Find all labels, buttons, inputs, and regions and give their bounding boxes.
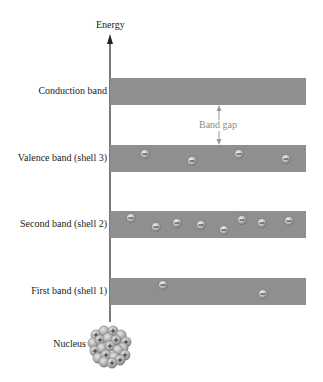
electron-icon: [234, 149, 243, 158]
electron-icon: [257, 218, 266, 227]
electron-icon: [237, 215, 246, 224]
electron-icon: [187, 156, 196, 165]
electron-icon: [284, 216, 293, 225]
nucleus-icon: [88, 326, 131, 368]
electron-icon: [281, 154, 290, 163]
electrons-group: [126, 149, 293, 298]
electron-icon: [158, 280, 167, 289]
electron-icon: [172, 218, 181, 227]
electron-icon: [151, 222, 160, 231]
electron-icon: [219, 225, 228, 234]
electron-icon: [258, 289, 267, 298]
electron-icon: [196, 220, 205, 229]
electrons-layer: [0, 0, 323, 382]
electron-icon: [140, 149, 149, 158]
electron-icon: [126, 213, 135, 222]
